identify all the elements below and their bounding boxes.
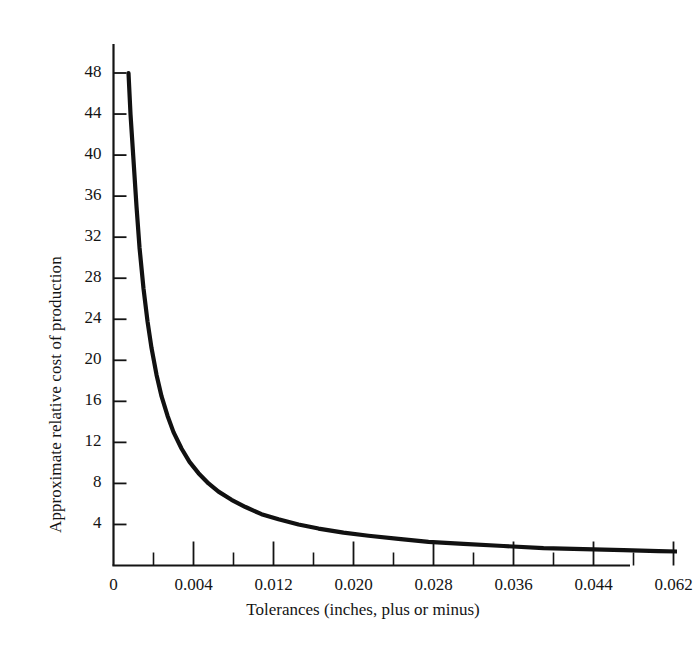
- x-tick-label: 0: [74, 575, 154, 595]
- x-axis-title: Tolerances (inches, plus or minus): [113, 600, 613, 620]
- y-tick-label: 4: [60, 513, 102, 533]
- y-tick-label: 48: [60, 62, 102, 82]
- y-tick-label: 8: [60, 472, 102, 492]
- x-tick-label: 0.062: [634, 575, 697, 595]
- y-tick-label: 40: [60, 144, 102, 164]
- x-tick-label: 0.004: [154, 575, 234, 595]
- x-tick-label: 0.044: [554, 575, 634, 595]
- x-tick-label: 0.036: [474, 575, 554, 595]
- x-tick-marks: [154, 542, 674, 566]
- y-tick-label: 32: [60, 226, 102, 246]
- y-tick-label: 44: [60, 103, 102, 123]
- y-tick-label: 28: [60, 267, 102, 287]
- cost-curve: [129, 73, 678, 552]
- x-tick-label: 0.020: [314, 575, 394, 595]
- y-tick-label: 16: [60, 390, 102, 410]
- y-tick-label: 12: [60, 431, 102, 451]
- x-tick-label: 0.012: [234, 575, 314, 595]
- y-tick-label: 20: [60, 349, 102, 369]
- y-tick-label: 24: [60, 308, 102, 328]
- x-tick-label: 0.028: [394, 575, 474, 595]
- y-tick-marks: [114, 73, 127, 524]
- y-tick-label: 36: [60, 185, 102, 205]
